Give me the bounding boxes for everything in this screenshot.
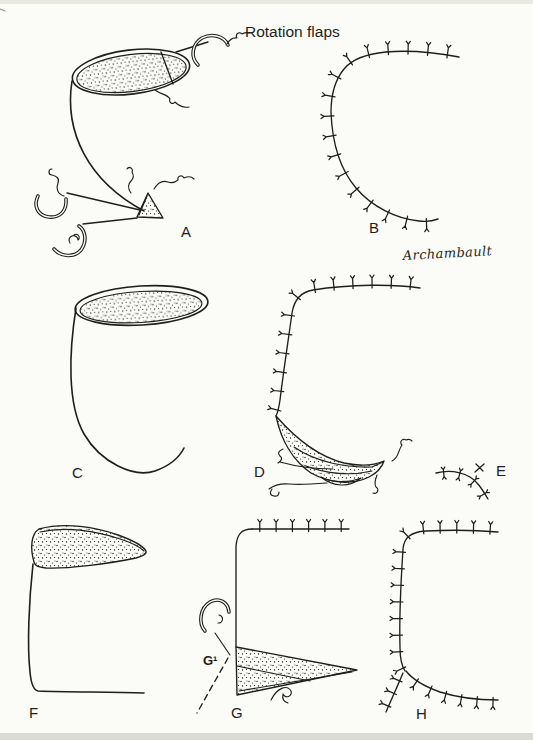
figure-title: Rotation flaps (245, 23, 340, 40)
panel-label-a: A (181, 223, 191, 240)
suture-ticks (390, 521, 493, 675)
panel-d: D (254, 275, 420, 496)
figure-canvas: Rotation flaps A B Archambault C (0, 0, 533, 740)
panel-a: A (36, 33, 250, 256)
suture-line (276, 285, 420, 416)
defect-teardrop-stippled (32, 526, 146, 568)
suture-needle-core (36, 196, 66, 217)
suture-thread (215, 633, 230, 655)
suture-thread (278, 449, 283, 463)
suture-line (400, 530, 498, 671)
flap-incision-curve (71, 308, 184, 473)
suture-thread (127, 168, 133, 193)
back-cut-triangle (137, 193, 163, 218)
suture-ticks (258, 520, 343, 532)
panel-g: G¹ G (197, 520, 357, 722)
panel-label-c: C (72, 464, 83, 481)
suture-thread (271, 688, 291, 703)
panel-c: C (71, 282, 209, 481)
artist-signature: Archambault (401, 243, 493, 263)
suture-thread (155, 90, 189, 107)
panel-label-g: G (231, 704, 243, 721)
panel-e: E (436, 462, 506, 499)
suture-ticks (321, 41, 451, 231)
panel-label-b: B (369, 219, 379, 236)
flap-incision-outline (29, 564, 144, 693)
suture-thread (218, 615, 223, 623)
back-cut-triangle (236, 647, 357, 695)
flap-incision-curve (71, 81, 145, 211)
suture-thread (269, 483, 327, 489)
suture-thread (69, 234, 79, 243)
suture-thread (154, 176, 194, 189)
defect-ellipse-stippled (75, 48, 189, 98)
suture-thread (270, 489, 279, 496)
suture-line (406, 671, 498, 700)
scan-speck (0, 9, 5, 11)
panel-label-e: E (496, 462, 506, 479)
suture-line (331, 51, 459, 221)
panel-label-d: D (254, 463, 265, 480)
panel-label-h: H (416, 705, 427, 722)
suture-thread (49, 169, 64, 196)
panel-h: H (379, 521, 498, 723)
panel-label-g1: G¹ (203, 653, 217, 668)
incision-line (83, 218, 137, 224)
panel-label-f: F (29, 704, 38, 721)
scan-noise-top (0, 0, 533, 4)
suture-needle (201, 600, 229, 631)
incision-corner-line (236, 529, 252, 647)
suture-cross-mark (475, 464, 484, 472)
panel-b: B Archambault (321, 41, 493, 263)
suture-thread (392, 439, 412, 461)
scan-noise-bottom (0, 733, 533, 740)
suture-thread (373, 475, 378, 493)
suture-ticks (268, 275, 414, 411)
panel-f: F (29, 526, 147, 721)
